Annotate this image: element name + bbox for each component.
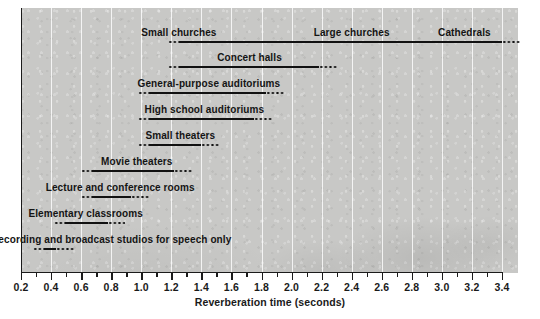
x-tick-label: 3.4 — [494, 281, 509, 293]
x-tick-major — [502, 273, 503, 280]
x-tick-minor — [427, 273, 428, 277]
x-tick-label: 1.6 — [224, 281, 239, 293]
x-tick-minor — [216, 273, 217, 277]
x-tick-major — [51, 273, 52, 280]
x-tick-major — [141, 273, 142, 280]
x-tick-minor — [367, 273, 368, 277]
x-tick-label: 2.6 — [374, 281, 389, 293]
x-tick-minor — [307, 273, 308, 277]
x-tick-label: 2.2 — [314, 281, 329, 293]
bar-dots-left — [81, 170, 92, 172]
x-tick-minor — [277, 273, 278, 277]
x-tick-major — [262, 273, 263, 280]
x-tick-label: 3.0 — [434, 281, 449, 293]
x-tick-major — [81, 273, 82, 280]
x-tick-minor — [246, 273, 247, 277]
x-tick-major — [472, 273, 473, 280]
x-tick-major — [412, 273, 413, 280]
x-tick-minor — [36, 273, 37, 277]
x-tick-major — [322, 273, 323, 280]
x-tick-label: 1.0 — [134, 281, 149, 293]
x-axis-title: Reverberation time (seconds) — [0, 296, 540, 308]
x-tick-major — [292, 273, 293, 280]
reverberation-time-chart: Small churchesLarge churchesCathedralsCo… — [0, 0, 540, 319]
x-tick-label: 3.2 — [464, 281, 479, 293]
x-tick-major — [201, 273, 202, 280]
x-tick-major — [231, 273, 232, 280]
x-tick-label: 2.8 — [404, 281, 419, 293]
x-tick-label: 0.6 — [74, 281, 89, 293]
y-axis-line — [21, 8, 22, 273]
x-tick-minor — [397, 273, 398, 277]
x-tick-major — [171, 273, 172, 280]
x-tick-label: 1.4 — [194, 281, 209, 293]
x-tick-minor — [186, 273, 187, 277]
x-tick-major — [21, 273, 22, 280]
x-tick-major — [382, 273, 383, 280]
x-tick-minor — [457, 273, 458, 277]
x-tick-major — [442, 273, 443, 280]
x-tick-major — [352, 273, 353, 280]
gridline — [502, 8, 503, 273]
gridline — [412, 8, 413, 273]
x-tick-minor — [66, 273, 67, 277]
x-tick-label: 0.4 — [43, 281, 58, 293]
x-tick-label: 0.2 — [13, 281, 28, 293]
bar-dots-right — [502, 41, 520, 43]
x-tick-minor — [337, 273, 338, 277]
x-tick-label: 1.8 — [254, 281, 269, 293]
gridline — [292, 8, 293, 273]
x-tick-label: 0.8 — [104, 281, 119, 293]
x-tick-minor — [96, 273, 97, 277]
x-tick-label: 1.2 — [164, 281, 179, 293]
x-tick-minor — [487, 273, 488, 277]
x-tick-label: 2.4 — [344, 281, 359, 293]
x-tick-minor — [156, 273, 157, 277]
x-tick-minor — [126, 273, 127, 277]
x-tick-label: 2.0 — [284, 281, 299, 293]
x-tick-major — [111, 273, 112, 280]
